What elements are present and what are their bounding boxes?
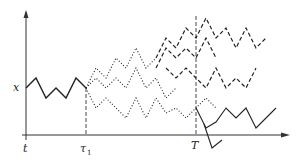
- axes: [22, 10, 290, 140]
- y-axis-arrowhead: [24, 10, 29, 18]
- t-origin-label: t: [23, 142, 28, 155]
- dotted-path-middle: [86, 68, 176, 98]
- T-label: T: [191, 139, 200, 152]
- final-solid-paths: [196, 108, 276, 148]
- dotted-paths: [86, 48, 216, 118]
- x-axis-arrowhead: [281, 133, 290, 138]
- dashed-paths: [156, 18, 266, 88]
- dashed-path-second: [156, 38, 216, 68]
- tau-subscript: 1: [87, 149, 91, 157]
- branching-paths-diagram: x t τ 1 T: [0, 0, 306, 160]
- dotted-path-lower: [86, 88, 216, 118]
- initial-solid-path: [26, 78, 86, 98]
- dashed-path-third: [166, 68, 256, 88]
- tau-label: τ: [80, 142, 87, 155]
- dashed-path-top: [156, 18, 266, 58]
- x-value-label: x: [13, 81, 20, 94]
- final-solid-path-main: [196, 108, 276, 128]
- dotted-path-upper: [86, 48, 156, 88]
